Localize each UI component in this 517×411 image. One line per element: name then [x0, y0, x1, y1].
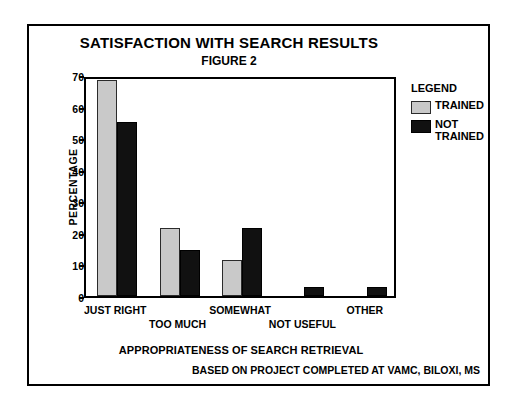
y-axis: 010203040506070 PERCENTAGE: [51, 77, 84, 298]
x-axis-label-just-right: JUST RIGHT: [84, 304, 146, 316]
legend-swatch-not-trained: [411, 120, 431, 133]
x-axis-label-other: OTHER: [346, 304, 383, 316]
bar-just-right-not-trained: [117, 122, 137, 296]
chart-title: SATISFACTION WITH SEARCH RESULTS: [29, 34, 429, 51]
bar-somewhat-not-trained: [242, 228, 262, 296]
bar-too-much-trained: [160, 228, 180, 296]
legend-entries: TRAINEDNOT TRAINED: [411, 100, 487, 142]
bar-just-right-trained: [97, 80, 117, 296]
bar-not-useful-not-trained: [304, 287, 324, 296]
x-axis-label-too-much: TOO MUCH: [149, 318, 206, 330]
legend-label: TRAINED: [435, 100, 484, 112]
legend-swatch-trained: [411, 101, 431, 114]
legend-item: NOT TRAINED: [411, 119, 487, 142]
legend: LEGEND TRAINEDNOT TRAINED: [411, 82, 487, 147]
x-axis-label-not-useful: NOT USEFUL: [269, 318, 336, 330]
chart-subtitle: FIGURE 2: [29, 54, 429, 68]
x-axis-title: APPROPRIATENESS OF SEARCH RETRIEVAL: [41, 344, 441, 356]
chart-footnote: BASED ON PROJECT COMPLETED AT VAMC, BILO…: [192, 364, 480, 376]
figure-frame: SATISFACTION WITH SEARCH RESULTS FIGURE …: [27, 24, 490, 386]
plot-area: [84, 77, 396, 298]
bar-somewhat-trained: [222, 260, 242, 296]
bar-other-not-trained: [367, 287, 387, 296]
legend-label: NOT TRAINED: [435, 119, 484, 142]
legend-title: LEGEND: [411, 82, 487, 94]
bar-too-much-not-trained: [180, 250, 200, 296]
legend-item: TRAINED: [411, 100, 487, 114]
bars-layer: [86, 79, 394, 296]
x-axis-label-somewhat: SOMEWHAT: [209, 304, 271, 316]
y-axis-title: PERCENTAGE: [67, 127, 79, 247]
